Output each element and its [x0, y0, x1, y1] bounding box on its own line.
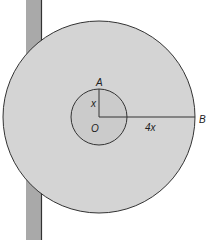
- diagram-canvas: A x O 4x B: [0, 0, 212, 240]
- label-point-a: A: [95, 77, 103, 88]
- label-center: O: [91, 123, 99, 134]
- label-inner-radius: x: [90, 98, 97, 109]
- label-point-b: B: [199, 114, 206, 125]
- label-outer-segment: 4x: [145, 122, 157, 133]
